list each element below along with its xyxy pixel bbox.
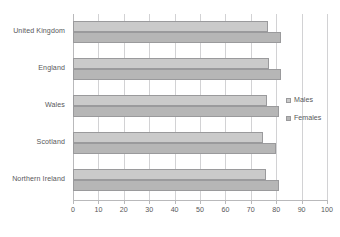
x-axis-tick-40 bbox=[175, 200, 176, 204]
x-axis-tick-60 bbox=[225, 200, 226, 204]
x-axis-tick-80 bbox=[276, 200, 277, 204]
bar-males-united-kingdom bbox=[73, 21, 268, 32]
x-tick-label-70: 70 bbox=[247, 206, 255, 214]
x-axis-tick-10 bbox=[98, 200, 99, 204]
legend-swatch-icon-males bbox=[286, 98, 291, 103]
legend-item-males[interactable]: Males bbox=[286, 96, 340, 105]
x-tick-label-100: 100 bbox=[321, 206, 333, 214]
category-axis-labels: United KingdomEnglandWalesScotlandNorthe… bbox=[0, 14, 69, 200]
x-axis-tick-50 bbox=[200, 200, 201, 204]
x-axis-tick-70 bbox=[251, 200, 252, 204]
bar-females-wales bbox=[73, 106, 279, 117]
category-label-scotland: Scotland bbox=[0, 138, 65, 147]
bar-females-united-kingdom bbox=[73, 32, 281, 43]
legend-label-females: Females bbox=[294, 114, 321, 123]
x-tick-label-50: 50 bbox=[196, 206, 204, 214]
x-axis-tick-100 bbox=[327, 200, 328, 204]
x-tick-label-20: 20 bbox=[120, 206, 128, 214]
x-tick-label-10: 10 bbox=[94, 206, 102, 214]
category-label-northern-ireland: Northern Ireland bbox=[0, 175, 65, 184]
bar-males-wales bbox=[73, 95, 267, 106]
chart-legend: MalesFemales bbox=[286, 96, 340, 132]
bar-males-northern-ireland bbox=[73, 169, 266, 180]
x-tick-label-60: 60 bbox=[221, 206, 229, 214]
x-tick-label-0: 0 bbox=[71, 206, 75, 214]
x-tick-label-30: 30 bbox=[145, 206, 153, 214]
x-axis-tick-90 bbox=[302, 200, 303, 204]
bar-females-england bbox=[73, 69, 281, 80]
legend-swatch-icon-females bbox=[286, 116, 291, 121]
legend-item-females[interactable]: Females bbox=[286, 114, 340, 123]
x-tick-label-80: 80 bbox=[272, 206, 280, 214]
bar-females-scotland bbox=[73, 143, 276, 154]
category-label-united-kingdom: United Kingdom bbox=[0, 27, 65, 36]
bar-males-scotland bbox=[73, 132, 263, 143]
category-label-wales: Wales bbox=[0, 101, 65, 110]
x-tick-label-40: 40 bbox=[171, 206, 179, 214]
x-axis-tick-20 bbox=[124, 200, 125, 204]
x-tick-label-90: 90 bbox=[298, 206, 306, 214]
legend-label-males: Males bbox=[294, 96, 313, 105]
bar-females-northern-ireland bbox=[73, 180, 279, 191]
bar-chart: United KingdomEnglandWalesScotlandNorthe… bbox=[0, 0, 340, 237]
x-axis-tick-labels: 0102030405060708090100 bbox=[73, 206, 327, 220]
bar-males-england bbox=[73, 58, 269, 69]
x-axis-tick-30 bbox=[149, 200, 150, 204]
x-axis-tick-0 bbox=[73, 200, 74, 204]
category-label-england: England bbox=[0, 64, 65, 73]
